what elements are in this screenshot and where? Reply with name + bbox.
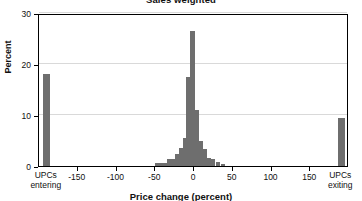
gridline (39, 12, 347, 13)
x-tick-label: -150 (68, 172, 85, 182)
bar (211, 159, 215, 166)
x-tick-mark (154, 167, 155, 171)
x-tick-label-line2: entering (30, 181, 61, 191)
plot-area (38, 14, 348, 167)
x-tick-mark (232, 167, 233, 171)
y-tick-label: 10 (22, 111, 31, 121)
x-tick-label: 100 (263, 172, 277, 182)
bar (190, 31, 194, 166)
bar (221, 164, 225, 166)
x-axis-title: Price change (percent) (0, 191, 362, 201)
bar (43, 74, 50, 166)
y-axis-title: Percent (3, 27, 13, 87)
chart-container: Sales weighted Percent 0102030 Price cha… (0, 0, 362, 201)
x-tick-mark (116, 167, 117, 171)
bar (216, 162, 220, 166)
x-tick-mark (309, 167, 310, 171)
x-tick-label: 50 (227, 172, 236, 182)
y-tick-label: 20 (22, 60, 31, 70)
bar-series (39, 15, 347, 166)
x-axis: Price change (percent) -150-100-50050100… (0, 167, 362, 201)
x-tick-label: -50 (148, 172, 160, 182)
x-tick-mark (77, 167, 78, 171)
x-tick-label: 150 (302, 172, 316, 182)
y-tick-label: 30 (22, 9, 31, 19)
bar (338, 118, 345, 166)
chart-title: Sales weighted (0, 0, 362, 5)
x-tick-label-line2: exiting (328, 181, 353, 191)
x-tick-label: -100 (107, 172, 124, 182)
x-tick-label-special: UPCsentering (30, 171, 61, 190)
x-tick-label-special: UPCsexiting (328, 171, 353, 190)
x-tick-label: 0 (191, 172, 196, 182)
x-tick-mark (193, 167, 194, 171)
x-tick-mark (271, 167, 272, 171)
